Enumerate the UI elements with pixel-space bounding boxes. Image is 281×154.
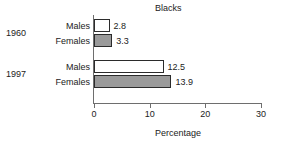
x-tick-label: 0 bbox=[91, 109, 96, 119]
value-label-1997-females: 13.9 bbox=[175, 77, 193, 87]
series-label-1997-females: Females bbox=[40, 77, 90, 87]
value-label-1997-males: 12.5 bbox=[168, 62, 186, 72]
series-label-1960-males: Males bbox=[40, 21, 90, 31]
chart-title: Blacks bbox=[155, 3, 182, 13]
x-tick-mark bbox=[150, 104, 151, 108]
bar-1960-males bbox=[94, 19, 110, 32]
series-label-1960-females: Females bbox=[40, 36, 90, 46]
x-axis-line bbox=[94, 103, 262, 104]
bar-1960-females bbox=[94, 34, 112, 47]
x-tick-label: 10 bbox=[145, 109, 155, 119]
x-axis-title: Percentage bbox=[94, 128, 262, 138]
bar-1997-males bbox=[94, 60, 164, 73]
bar-1997-females bbox=[94, 75, 171, 88]
x-tick-mark bbox=[261, 104, 262, 108]
bar-chart: Blacks 0102030 1960Males2.8Females3.3199… bbox=[0, 0, 281, 154]
value-label-1960-males: 2.8 bbox=[114, 21, 127, 31]
x-tick-label: 30 bbox=[256, 109, 266, 119]
series-label-1997-males: Males bbox=[40, 62, 90, 72]
x-tick-mark bbox=[94, 104, 95, 108]
x-tick-label: 20 bbox=[200, 109, 210, 119]
value-label-1960-females: 3.3 bbox=[116, 36, 129, 46]
x-tick-mark bbox=[205, 104, 206, 108]
